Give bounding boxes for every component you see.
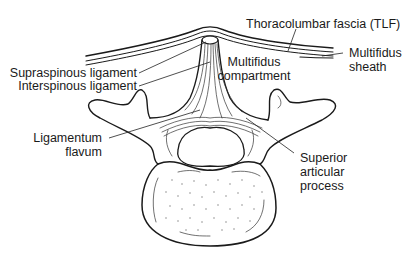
label-ligamentum-flavum: Ligamentumflavum [33, 131, 102, 159]
vertebral-body [142, 162, 276, 246]
label-superior-articular-process: Superiorarticularprocess [300, 151, 347, 193]
label-multifidus-compartment: Multifiduscompartment [218, 55, 291, 83]
thoracolumbar-fascia [86, 27, 333, 65]
label-interspinous-ligament: Interspinous ligament [18, 79, 137, 93]
vertebral-arch [89, 89, 336, 166]
label-thoracolumbar-fascia: Thoracolumbar fascia (TLF) [246, 17, 400, 31]
label-multifidus-sheath: Multifidussheath [349, 46, 402, 74]
label-supraspinous-ligament: Supraspinous ligament [10, 66, 138, 80]
vertebra-diagram: Thoracolumbar fascia (TLF) Multifidusshe… [0, 0, 413, 255]
